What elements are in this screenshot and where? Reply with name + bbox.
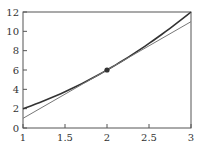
series-group — [23, 12, 191, 118]
y-tick-label: 10 — [6, 26, 19, 37]
x-tick-label: 2 — [104, 132, 110, 143]
x-tick-label: 3 — [188, 132, 194, 143]
y-tick-label: 2 — [13, 103, 19, 114]
x-tick-label: 2.5 — [141, 132, 157, 143]
curve-line — [23, 12, 191, 109]
x-axis-ticks: 11.522.53 — [20, 124, 194, 143]
y-axis-ticks: 024681012 — [6, 7, 27, 134]
tangent-point-marker — [104, 67, 109, 72]
chart: 11.522.53 024681012 — [0, 0, 202, 147]
x-tick-label: 1.5 — [57, 132, 73, 143]
y-tick-label: 0 — [13, 123, 19, 134]
y-tick-label: 8 — [13, 45, 19, 56]
y-tick-label: 6 — [13, 65, 19, 76]
y-tick-label: 12 — [6, 7, 19, 18]
annotation-points — [104, 67, 109, 72]
y-tick-label: 4 — [13, 84, 19, 95]
x-tick-label: 1 — [20, 132, 26, 143]
